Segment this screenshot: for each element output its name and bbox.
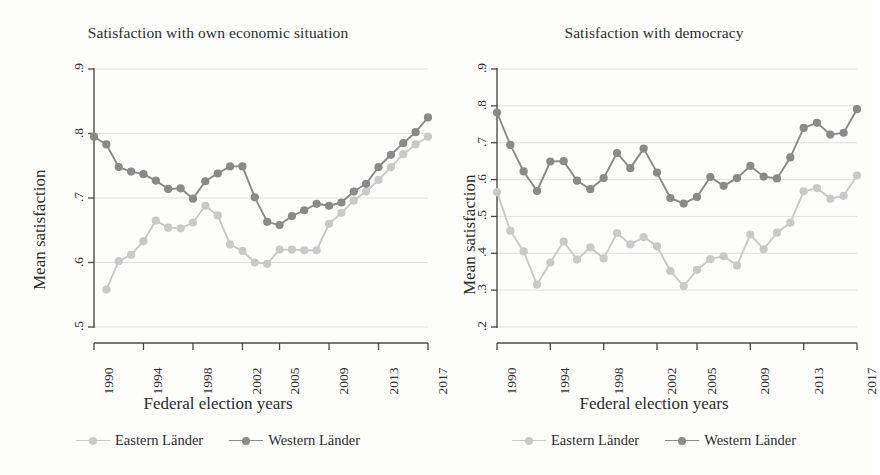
data-point-marker [720,252,728,260]
data-point-marker [640,233,648,241]
panel-own-economic-situation: Satisfaction with own economic situation… [0,0,436,475]
data-point-marker [720,182,728,190]
data-point-marker [189,195,197,203]
data-point-marker [387,163,395,171]
x-tick-label: 2009 [757,368,773,395]
data-point-marker [746,162,754,170]
data-point-marker [226,162,234,170]
x-tick-label: 2013 [810,368,826,395]
data-point-marker [666,194,674,202]
data-point-marker [546,258,554,266]
data-point-marker [813,119,821,127]
data-point-marker [362,180,370,188]
data-point-marker [313,200,321,208]
x-tick-label: 2017 [864,368,880,395]
legend-marker-icon [229,435,263,447]
data-point-marker [586,185,594,193]
y-tick-label: .9 [71,55,87,81]
data-point-marker [640,145,648,153]
data-point-marker [733,174,741,182]
data-point-marker [362,187,370,195]
y-tick-label: .2 [474,313,490,339]
data-point-marker [840,192,848,200]
data-point-marker [706,255,714,263]
data-point-marker [853,171,861,179]
data-point-marker [533,281,541,289]
legend-item-eastern[interactable]: Eastern Länder [76,432,203,449]
data-point-marker [786,219,794,227]
data-point-marker [733,261,741,269]
legend-item-western[interactable]: Western Länder [665,432,796,449]
data-point-marker [399,150,407,158]
data-point-marker [424,113,432,121]
data-point-marker [546,157,554,165]
data-point-marker [399,139,407,147]
data-point-marker [826,195,834,203]
legend-item-western[interactable]: Western Länder [229,432,360,449]
data-point-marker [826,131,834,139]
data-point-marker [214,211,222,219]
data-point-marker [613,229,621,237]
data-point-marker [424,133,432,141]
y-tick-label: .3 [474,276,490,302]
data-point-marker [139,170,147,178]
legend-marker-icon [512,435,546,447]
y-tick-label: .4 [474,239,490,265]
data-point-marker [760,245,768,253]
data-point-marker [693,266,701,274]
data-point-marker [600,254,608,262]
data-point-marker [693,193,701,201]
data-point-marker [263,260,271,268]
y-tick-label: .7 [474,129,490,155]
legend-marker-icon [665,435,699,447]
legend-item-eastern[interactable]: Eastern Länder [512,432,639,449]
y-tick-label: .6 [474,166,490,192]
data-point-marker [350,196,358,204]
data-point-marker [412,140,420,148]
data-point-marker [666,267,674,275]
x-tick-label: 1998 [199,368,215,395]
data-point-marker [300,206,308,214]
y-tick-label: .5 [71,313,87,339]
x-axis-label: Federal election years [0,394,436,414]
data-point-marker [600,174,608,182]
x-tick-label: 1994 [557,368,573,395]
data-point-marker [506,141,514,149]
data-point-marker [520,167,528,175]
data-point-marker [573,177,581,185]
x-tick-label: 1990 [101,368,117,395]
data-point-marker [706,173,714,181]
x-tick-label: 1998 [610,368,626,395]
data-point-marker [840,129,848,137]
data-point-marker [493,188,501,196]
x-tick-label: 2005 [286,368,302,395]
data-point-marker [102,140,110,148]
data-point-marker [387,151,395,159]
data-point-marker [374,163,382,171]
data-point-marker [493,108,501,116]
data-point-marker [853,105,861,113]
data-point-marker [325,202,333,210]
data-point-marker [573,255,581,263]
data-point-marker [201,202,209,210]
data-point-marker [680,199,688,207]
data-point-marker [90,133,98,141]
data-point-marker [653,168,661,176]
x-tick-label: 2005 [704,368,720,395]
y-tick-label: .7 [71,184,87,210]
data-point-marker [288,212,296,220]
x-tick-label: 2002 [249,368,265,395]
data-point-marker [337,198,345,206]
data-point-marker [613,149,621,157]
x-axis-label: Federal election years [436,394,872,414]
legend-label: Western Länder [704,432,796,449]
data-point-marker [300,246,308,254]
data-point-marker [152,176,160,184]
data-point-marker [325,220,333,228]
data-point-marker [226,240,234,248]
data-point-marker [350,187,358,195]
x-tick-label: 1990 [504,368,520,395]
x-tick-label: 2013 [385,368,401,395]
data-point-marker [520,247,528,255]
